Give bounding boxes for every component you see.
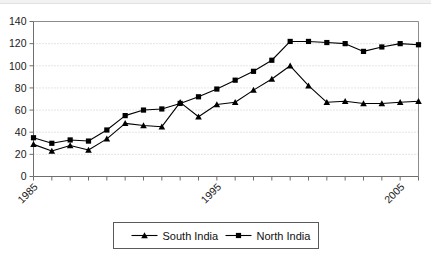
y-tick-label: 80 — [15, 82, 27, 94]
series-north-india — [31, 39, 421, 146]
plot-frame — [34, 22, 419, 177]
data-point — [416, 42, 421, 47]
y-tick-label: 100 — [9, 60, 27, 72]
y-tick-label: 60 — [15, 104, 27, 116]
data-point — [269, 76, 276, 82]
data-point — [288, 39, 293, 44]
legend-marker — [236, 233, 241, 238]
data-point — [196, 94, 201, 99]
data-point — [30, 141, 37, 147]
y-tick-label: 140 — [9, 15, 27, 27]
data-point — [251, 69, 256, 74]
data-point — [379, 44, 384, 49]
data-point — [306, 39, 311, 44]
legend-label: South India — [163, 230, 220, 242]
data-point — [232, 99, 239, 105]
y-tick-label: 120 — [9, 37, 27, 49]
x-axis: 198519952005 — [15, 177, 419, 206]
data-point — [31, 135, 36, 140]
chart-container: 020406080100120140198519952005South Indi… — [0, 0, 431, 264]
data-point — [361, 49, 366, 54]
y-tick-label: 40 — [15, 126, 27, 138]
data-point — [68, 137, 73, 142]
x-tick-label: 1985 — [15, 180, 40, 205]
data-point — [159, 106, 164, 111]
legend: South IndiaNorth India — [114, 223, 319, 249]
data-point — [233, 78, 238, 83]
y-axis: 020406080100120140 — [9, 15, 34, 182]
legend-label: North India — [257, 230, 312, 242]
data-point — [343, 41, 348, 46]
x-tick-label: 1995 — [198, 180, 223, 205]
data-point — [214, 86, 219, 91]
data-point — [269, 58, 274, 63]
series-line — [34, 41, 419, 143]
data-point — [86, 138, 91, 143]
data-point — [324, 40, 329, 45]
line-chart-svg: 020406080100120140198519952005South Indi… — [0, 0, 431, 264]
data-point — [67, 142, 74, 148]
series-line — [34, 66, 419, 151]
x-tick-label: 2005 — [382, 180, 407, 205]
data-point — [141, 107, 146, 112]
data-point — [122, 120, 129, 126]
y-tick-label: 0 — [21, 170, 27, 182]
data-point — [398, 41, 403, 46]
y-tick-label: 20 — [15, 148, 27, 160]
data-point — [178, 101, 183, 106]
data-point — [104, 127, 109, 132]
grid-lines — [34, 22, 419, 155]
data-point — [123, 113, 128, 118]
data-point — [49, 141, 54, 146]
